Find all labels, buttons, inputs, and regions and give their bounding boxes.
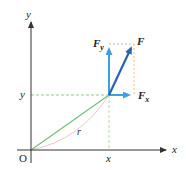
- x-axis-label: x: [171, 143, 177, 155]
- y-axis-label: y: [25, 8, 31, 20]
- fy-label: Fy: [92, 37, 104, 52]
- origin-label: O: [19, 152, 27, 164]
- radius-line: [31, 95, 109, 150]
- f-label: F: [136, 35, 145, 47]
- fx-label: Fx: [137, 89, 149, 104]
- point-x-label: x: [105, 152, 111, 164]
- radius-label: r: [77, 126, 81, 137]
- point-y-label: y: [19, 88, 25, 100]
- force-diagram: y x O y x r Fy F Fx: [0, 0, 186, 170]
- f-vector: [109, 48, 131, 95]
